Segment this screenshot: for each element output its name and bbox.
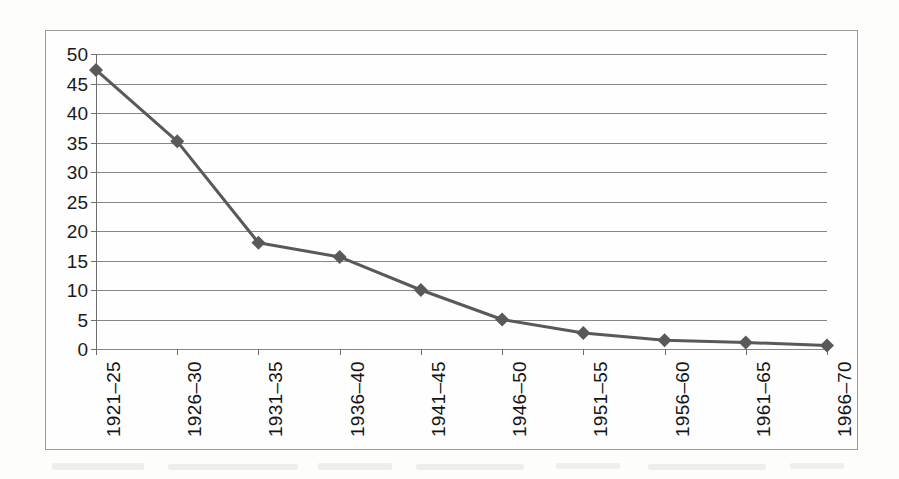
x-tick-mark (258, 349, 259, 355)
x-tick-label: 1936–40 (348, 361, 367, 437)
scan-artifact (648, 464, 766, 470)
data-point-marker (333, 250, 347, 264)
x-tick-mark (502, 349, 503, 355)
x-tick-mark (421, 349, 422, 355)
series-line-chart (96, 54, 827, 349)
x-tick-label: 1931–35 (266, 361, 285, 437)
x-tick-mark (665, 349, 666, 355)
x-tick-mark (583, 349, 584, 355)
y-tick-label: 50 (67, 45, 88, 64)
scan-artifact (52, 463, 144, 470)
data-point-marker (739, 336, 753, 350)
scan-artifact (168, 464, 298, 470)
x-tick-label: 1961–65 (754, 361, 773, 437)
x-tick-label: 1956–60 (673, 361, 692, 437)
x-tick-label: 1926–30 (185, 361, 204, 437)
x-tick-label: 1966–70 (835, 361, 854, 437)
y-tick-label: 25 (67, 192, 88, 211)
scan-artifact (790, 463, 844, 469)
chart-figure: 05101520253035404550 1921–251926–301931–… (0, 0, 899, 479)
y-tick-label: 15 (67, 251, 88, 270)
y-tick-label: 20 (67, 222, 88, 241)
x-tick-mark (177, 349, 178, 355)
scan-artifact (416, 464, 524, 470)
gridline (96, 349, 827, 350)
x-tick-label: 1941–45 (429, 361, 448, 437)
y-tick-label: 35 (67, 133, 88, 152)
series-data-markers (89, 63, 834, 353)
scan-artifact (556, 463, 620, 469)
plot-area: 05101520253035404550 1921–251926–301931–… (96, 54, 827, 349)
y-tick-label: 5 (77, 310, 88, 329)
data-point-marker (820, 338, 834, 352)
data-point-marker (658, 333, 672, 347)
x-tick-label: 1921–25 (104, 361, 123, 437)
scan-artifact (318, 463, 392, 470)
x-tick-mark (340, 349, 341, 355)
x-tick-label: 1946–50 (510, 361, 529, 437)
y-tick-label: 30 (67, 163, 88, 182)
x-tick-mark (96, 349, 97, 355)
y-tick-label: 40 (67, 104, 88, 123)
series-line-path (96, 70, 827, 346)
data-point-marker (495, 313, 509, 327)
x-tick-mark (746, 349, 747, 355)
y-tick-label: 10 (67, 281, 88, 300)
data-point-marker (414, 283, 428, 297)
chart-plot-frame: 05101520253035404550 1921–251926–301931–… (45, 30, 858, 450)
y-tick-label: 45 (67, 74, 88, 93)
y-tick-label: 0 (77, 340, 88, 359)
x-tick-label: 1951–55 (591, 361, 610, 437)
data-point-marker (576, 326, 590, 340)
